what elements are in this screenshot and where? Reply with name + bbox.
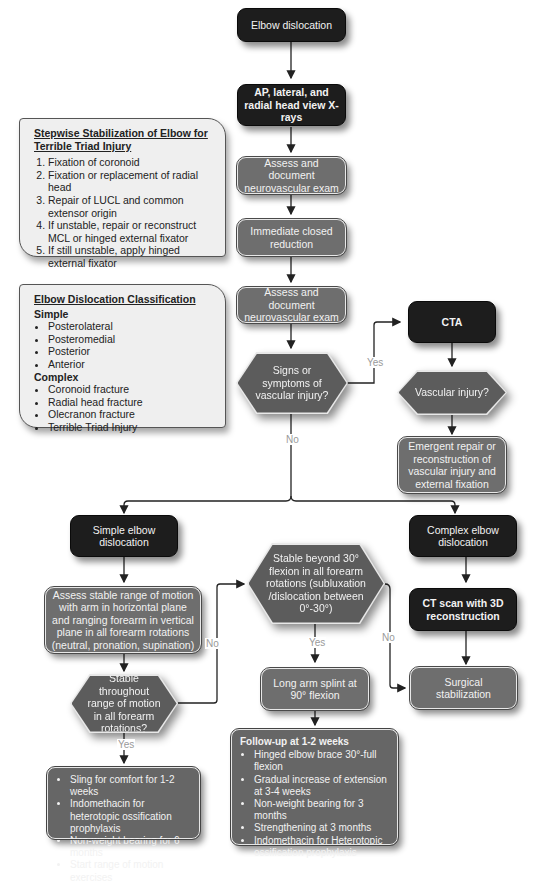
followup-item: Gradual increase of extension at 3-4 wee… xyxy=(254,774,391,798)
stepwise-list: Fixation of coronoid Fixation or replace… xyxy=(34,156,215,269)
node-label: Elbow dislocation xyxy=(251,19,332,32)
node-emergent-repair: Emergent repair or reconstruction of vas… xyxy=(398,437,506,493)
edge-label-yes: Yes xyxy=(308,637,326,648)
classification-box: Elbow Dislocation Classification Simple … xyxy=(19,284,226,428)
node-complex-elbow-dislocation: Complex elbow dislocation xyxy=(409,515,517,557)
stable-outcome-list: Sling for comfort for 1-2 weeks Indometh… xyxy=(56,774,193,884)
node-cta: CTA xyxy=(408,301,496,343)
node-label: Long arm splint at 90° flexion xyxy=(268,677,362,702)
followup-list: Hinged elbow brace 30°-full flexion Grad… xyxy=(240,749,391,859)
node-assess-neurovascular-2: Assess and document neurovascular exam xyxy=(237,287,346,323)
followup-item: Non-weight bearing for 3 months xyxy=(254,798,391,822)
classification-title: Elbow Dislocation Classification xyxy=(34,293,215,306)
edge-label-no: No xyxy=(205,638,220,649)
simple-item: Anterior xyxy=(48,358,215,371)
complex-label: Complex xyxy=(34,371,215,384)
followup-title: Follow-up at 1-2 weeks xyxy=(240,736,391,748)
decision-vascular-injury: Vascular injury? xyxy=(397,370,507,415)
stepwise-item: Repair of LUCL and common extensor origi… xyxy=(48,194,215,219)
node-assess-stable-rom: Assess stable range of motion with arm i… xyxy=(45,587,201,653)
stable-outcome-item: Non-weight bearing for 6 months xyxy=(70,835,193,859)
node-label: Complex elbow dislocation xyxy=(416,524,510,549)
complex-item: Coronoid fracture xyxy=(48,383,215,396)
complex-item: Olecranon fracture xyxy=(48,408,215,421)
followup-item: Indomethacin for Heterotopic ossificatio… xyxy=(254,835,391,859)
complex-list: Coronoid fracture Radial head fracture O… xyxy=(34,383,215,433)
node-label: Assess stable range of motion with arm i… xyxy=(50,589,196,652)
node-label: Emergent repair or reconstruction of vas… xyxy=(405,440,499,490)
node-label: Surgical stabilization xyxy=(417,676,510,701)
simple-item: Posterior xyxy=(48,345,215,358)
node-label: CTA xyxy=(442,316,463,329)
node-surgical-stabilization: Surgical stabilization xyxy=(410,667,517,709)
followup-item: Strengthening at 3 months xyxy=(254,822,391,834)
node-ct-scan-3d: CT scan with 3D reconstruction xyxy=(409,588,517,631)
node-assess-neurovascular-1: Assess and document neurovascular exam xyxy=(237,157,346,194)
node-xrays: AP, lateral, and radial head view X-rays xyxy=(237,84,346,126)
decision-label: Stable beyond 30° flexion in all forearm… xyxy=(265,552,367,615)
decision-signs-vascular-injury: Signs or symptoms of vascular injury? xyxy=(236,352,348,414)
stepwise-title: Stepwise Stabilization of Elbow for Terr… xyxy=(34,127,215,152)
stepwise-item: Fixation or replacement of radial head xyxy=(48,169,215,194)
decision-label: Signs or symptoms of vascular injury? xyxy=(253,364,331,402)
edge-label-yes: Yes xyxy=(117,739,135,750)
edge-label-yes: Yes xyxy=(366,357,384,368)
stable-outcome-item: Start range of motion exercises xyxy=(70,859,193,883)
node-label: Simple elbow dislocation xyxy=(77,524,171,549)
decision-label: Stable throughout range of motion in all… xyxy=(86,672,163,735)
node-label: Assess and document neurovascular exam xyxy=(244,286,339,324)
decision-stable-throughout: Stable throughout range of motion in all… xyxy=(70,674,178,733)
decision-stable-beyond-30: Stable beyond 30° flexion in all forearm… xyxy=(247,543,385,624)
node-label: CT scan with 3D reconstruction xyxy=(416,597,510,622)
simple-label: Simple xyxy=(34,308,215,321)
followup-item: Hinged elbow brace 30°-full flexion xyxy=(254,749,391,773)
node-simple-elbow-dislocation: Simple elbow dislocation xyxy=(70,515,178,557)
decision-label: Vascular injury? xyxy=(415,386,489,399)
stepwise-item: If still unstable, apply hinged external… xyxy=(48,244,215,269)
stable-outcome-box: Sling for comfort for 1-2 weeks Indometh… xyxy=(47,767,200,839)
simple-item: Posteromedial xyxy=(48,333,215,346)
node-long-arm-splint: Long arm splint at 90° flexion xyxy=(261,668,369,710)
stable-outcome-item: Sling for comfort for 1-2 weeks xyxy=(70,774,193,798)
node-immediate-closed-reduction: Immediate closed reduction xyxy=(237,219,346,256)
node-label: Immediate closed reduction xyxy=(244,225,339,250)
complex-item: Terrible Triad Injury xyxy=(48,421,215,434)
edge-label-no: No xyxy=(285,434,300,445)
stepwise-item: Fixation of coronoid xyxy=(48,156,215,169)
followup-box: Follow-up at 1-2 weeks Hinged elbow brac… xyxy=(231,729,398,845)
stepwise-stabilization-box: Stepwise Stabilization of Elbow for Terr… xyxy=(19,118,226,257)
complex-item: Radial head fracture xyxy=(48,396,215,409)
simple-item: Posterolateral xyxy=(48,320,215,333)
stable-outcome-item: Indomethacin for heterotopic ossificatio… xyxy=(70,798,193,835)
simple-list: Posterolateral Posteromedial Posterior A… xyxy=(34,320,215,370)
stepwise-item: If unstable, repair or reconstruct MCL o… xyxy=(48,219,215,244)
node-elbow-dislocation: Elbow dislocation xyxy=(237,8,346,42)
edge-label-no: No xyxy=(381,632,396,643)
node-label: AP, lateral, and radial head view X-rays xyxy=(244,86,339,124)
node-label: Assess and document neurovascular exam xyxy=(244,157,339,195)
